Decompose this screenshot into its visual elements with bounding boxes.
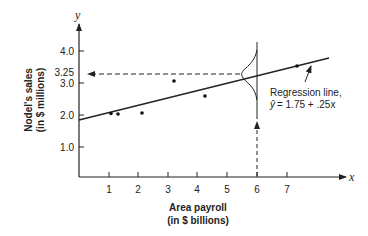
svg-text:3.0: 3.0 [60, 78, 74, 89]
data-point [109, 112, 113, 116]
regression-annotation: Regression line, ŷ = 1.75 + .25x [269, 87, 342, 110]
svg-text:4.0: 4.0 [60, 46, 74, 57]
data-point [203, 94, 207, 98]
y-ticks [79, 51, 84, 147]
svg-text:(in $ millions): (in $ millions) [35, 68, 46, 132]
svg-text:1.0: 1.0 [60, 142, 74, 153]
svg-text:2.0: 2.0 [60, 110, 74, 121]
data-point [116, 112, 120, 116]
svg-text:2: 2 [135, 184, 141, 195]
x-axis-title: Area payroll (in $ billions) [167, 202, 229, 226]
svg-text:Nodel's sales: Nodel's sales [23, 68, 34, 132]
svg-text:= 1.75 + .25x: = 1.75 + .25x [277, 99, 335, 110]
x-ticks [109, 172, 287, 177]
svg-text:(in $ billions): (in $ billions) [167, 215, 229, 226]
regression-diagram: y x 4.0 3.25 3.0 2.0 1.0 1 2 3 4 5 6 7 A… [0, 0, 368, 236]
y-tick-labels: 4.0 3.25 3.0 2.0 1.0 [55, 46, 75, 153]
svg-text:6: 6 [254, 184, 260, 195]
y-axis-title: Nodel's sales (in $ millions) [23, 68, 46, 132]
y-axis-var: y [74, 8, 81, 22]
svg-text:4: 4 [194, 184, 200, 195]
svg-text:Regression line,: Regression line, [270, 87, 342, 98]
x-axis-var: x [348, 170, 355, 184]
data-point [140, 111, 144, 115]
svg-text:1: 1 [106, 184, 112, 195]
annotation-pointer [305, 66, 311, 82]
data-point [172, 79, 176, 83]
svg-text:3: 3 [165, 184, 171, 195]
svg-text:5: 5 [224, 184, 230, 195]
normal-distribution-curve [242, 50, 257, 100]
x-tick-labels: 1 2 3 4 5 6 7 [106, 184, 290, 195]
svg-text:ŷ: ŷ [269, 99, 276, 110]
data-point [295, 64, 299, 68]
svg-text:3.25: 3.25 [55, 67, 75, 78]
svg-text:7: 7 [284, 184, 290, 195]
svg-text:Area payroll: Area payroll [169, 202, 227, 213]
